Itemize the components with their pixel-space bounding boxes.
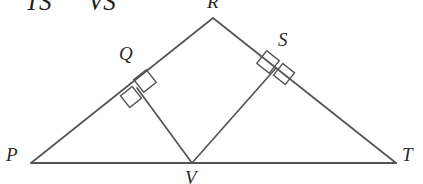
segment-VS: [192, 68, 276, 163]
point-label-q: Q: [119, 44, 133, 63]
cropped-text-fragment-vs: VS: [88, 0, 116, 14]
altitude-segments: [137, 68, 276, 163]
vertex-label-p: P: [6, 145, 18, 164]
segment-RT: [213, 18, 396, 163]
segment-VQ: [137, 88, 192, 163]
cropped-text-fragment-ts: TS: [25, 0, 51, 14]
point-label-s: S: [278, 30, 288, 49]
triangle-outline: [31, 18, 396, 163]
vertex-label-t: T: [402, 145, 413, 164]
vertex-label-v: V: [185, 168, 197, 184]
geometry-figure: TS VS P T V R Q S: [0, 0, 423, 184]
vertex-label-r: R: [207, 0, 219, 11]
segment-PR: [31, 18, 213, 163]
triangle-diagram-canvas: [0, 0, 423, 184]
